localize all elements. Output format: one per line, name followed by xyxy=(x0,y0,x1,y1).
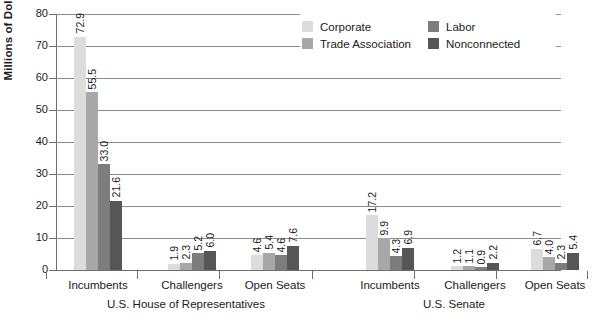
bar-value-label: 33.0 xyxy=(99,141,110,161)
legend-label-labor: Labor xyxy=(446,21,475,33)
category-label: Incumbents xyxy=(48,279,148,291)
bar-group: 1.92.35.26.0 xyxy=(168,14,216,270)
bar[interactable]: 2.3 xyxy=(555,263,567,270)
y-tick-label: 60 xyxy=(24,72,48,83)
bar-value-label: 6.7 xyxy=(532,231,543,246)
y-tick-mark xyxy=(49,14,56,15)
bar-value-label: 6.0 xyxy=(205,233,216,248)
category-label: Open Seats xyxy=(505,279,592,291)
bar[interactable]: 0.9 xyxy=(475,267,487,270)
axis-separator-tick xyxy=(496,271,497,279)
bar[interactable]: 9.9 xyxy=(378,238,390,270)
bar[interactable]: 1.2 xyxy=(451,266,463,270)
bar[interactable]: 6.9 xyxy=(402,248,414,270)
bar-value-label: 21.6 xyxy=(111,177,122,197)
y-tick-mark xyxy=(49,46,56,47)
y-tick-label: 50 xyxy=(24,104,48,115)
y-axis-tick-labels: 01020304050607080 xyxy=(22,14,48,271)
bar-value-label: 72.9 xyxy=(75,13,86,33)
bar-value-label: 7.6 xyxy=(288,228,299,243)
legend-row: Corporate Labor xyxy=(302,18,554,35)
bar[interactable]: 4.0 xyxy=(543,257,555,270)
bar-value-label: 2.3 xyxy=(556,245,567,260)
bar-value-label: 9.9 xyxy=(379,221,390,236)
legend-item-corporate[interactable]: Corporate xyxy=(302,21,428,33)
bar[interactable]: 1.1 xyxy=(463,266,475,270)
panel-label-house: U.S. House of Representatives xyxy=(66,298,306,310)
legend-item-labor[interactable]: Labor xyxy=(428,21,554,33)
y-tick-label: 30 xyxy=(24,168,48,179)
bar-group: 72.955.533.021.6 xyxy=(74,14,122,270)
bar-value-label: 0.9 xyxy=(476,250,487,265)
axis-separator-tick xyxy=(137,271,138,279)
bar[interactable]: 6.7 xyxy=(531,249,543,270)
bar-value-label: 5.2 xyxy=(193,236,204,251)
bar[interactable]: 1.9 xyxy=(168,264,180,270)
bar-value-label: 2.2 xyxy=(488,245,499,260)
bar[interactable]: 4.3 xyxy=(390,256,402,270)
axis-separator-tick xyxy=(312,271,313,279)
axis-separator-tick xyxy=(219,271,220,279)
legend-swatch-labor xyxy=(428,21,439,32)
legend-item-nonconnected[interactable]: Nonconnected xyxy=(428,38,554,50)
bar[interactable]: 7.6 xyxy=(287,246,299,270)
bar-value-label: 4.0 xyxy=(544,240,555,255)
y-tick-mark xyxy=(49,270,56,271)
legend-swatch-nonconnected xyxy=(428,38,439,49)
bar-value-label: 5.4 xyxy=(568,235,579,250)
bar-value-label: 17.2 xyxy=(367,192,378,212)
bar-group: 4.65.44.67.6 xyxy=(251,14,299,270)
panel-label-senate: U.S. Senate xyxy=(334,298,574,310)
bar-value-label: 1.2 xyxy=(452,249,463,264)
legend-swatch-corporate xyxy=(302,21,313,32)
bar-value-label: 4.6 xyxy=(276,238,287,253)
x-axis-line xyxy=(56,270,561,271)
legend-swatch-trade-association xyxy=(302,38,313,49)
y-tick-mark xyxy=(49,174,56,175)
legend-label-trade-association: Trade Association xyxy=(320,38,411,50)
chart-legend: Corporate Labor Trade Association Noncon… xyxy=(300,14,556,56)
bar-value-label: 1.9 xyxy=(169,246,180,261)
y-tick-label: 70 xyxy=(24,40,48,51)
y-tick-mark xyxy=(49,110,56,111)
bar[interactable]: 4.6 xyxy=(275,255,287,270)
bar[interactable]: 55.5 xyxy=(86,92,98,270)
bar-value-label: 6.9 xyxy=(403,230,414,245)
bar-value-label: 5.4 xyxy=(264,235,275,250)
y-tick-label: 20 xyxy=(24,200,48,211)
bar[interactable]: 2.2 xyxy=(487,263,499,270)
bar[interactable]: 5.4 xyxy=(263,253,275,270)
y-tick-label: 40 xyxy=(24,136,48,147)
bar[interactable]: 33.0 xyxy=(98,164,110,270)
y-tick-label: 10 xyxy=(24,232,48,243)
bar-value-label: 4.3 xyxy=(391,239,402,254)
bar-value-label: 55.5 xyxy=(87,69,98,89)
y-axis-title: Millions of Dollars xyxy=(2,0,14,100)
y-tick-mark xyxy=(49,142,56,143)
bar-value-label: 2.3 xyxy=(181,245,192,260)
axis-separator-tick xyxy=(414,271,415,279)
y-tick-mark xyxy=(49,78,56,79)
bar-value-label: 1.1 xyxy=(464,249,475,264)
axis-separator-tick xyxy=(46,271,47,279)
bar[interactable]: 2.3 xyxy=(180,263,192,270)
bar[interactable]: 5.2 xyxy=(192,253,204,270)
legend-row: Trade Association Nonconnected xyxy=(302,35,554,52)
y-tick-label: 0 xyxy=(24,264,48,275)
category-label: Open Seats xyxy=(225,279,325,291)
bar[interactable]: 4.6 xyxy=(251,255,263,270)
axis-separator-tick xyxy=(587,271,588,279)
legend-label-nonconnected: Nonconnected xyxy=(446,38,520,50)
legend-label-corporate: Corporate xyxy=(320,21,371,33)
bar-value-label: 4.6 xyxy=(252,238,263,253)
y-tick-mark xyxy=(49,238,56,239)
legend-item-trade-association[interactable]: Trade Association xyxy=(302,38,428,50)
bar[interactable]: 6.0 xyxy=(204,251,216,270)
bar[interactable]: 72.9 xyxy=(74,37,86,270)
bar[interactable]: 5.4 xyxy=(567,253,579,270)
y-tick-label: 80 xyxy=(24,8,48,19)
bar[interactable]: 17.2 xyxy=(366,215,378,270)
y-tick-mark xyxy=(49,206,56,207)
bar[interactable]: 21.6 xyxy=(110,201,122,270)
